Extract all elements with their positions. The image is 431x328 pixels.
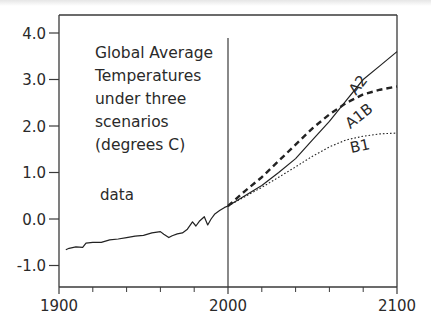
title-line: under three bbox=[95, 90, 186, 108]
y-tick-label: -1.0 bbox=[17, 257, 46, 275]
series-label-a1b: A1B bbox=[342, 100, 377, 133]
y-tick-label: 1.0 bbox=[22, 164, 46, 182]
title-line: Temperatures bbox=[94, 67, 201, 85]
x-axis: 190020002100 bbox=[40, 287, 416, 315]
x-tick-label: 2000 bbox=[209, 297, 247, 315]
title-line: scenarios bbox=[95, 113, 169, 131]
series-data-line bbox=[66, 206, 228, 250]
series-a1b-line bbox=[228, 87, 397, 207]
y-axis: 4.03.02.01.00.0-1.0 bbox=[17, 25, 59, 276]
x-tick-label: 2100 bbox=[378, 297, 416, 315]
temperature-scenario-chart: 4.03.02.01.00.0-1.0 190020002100 dataA2A… bbox=[0, 0, 431, 328]
y-tick-label: 2.0 bbox=[22, 118, 46, 136]
chart-title: Global AverageTemperaturesunder threesce… bbox=[94, 44, 213, 154]
series-label-data: data bbox=[100, 186, 134, 204]
title-line: (degrees C) bbox=[95, 136, 185, 154]
x-tick-label: 1900 bbox=[40, 297, 78, 315]
series-b1-line bbox=[228, 133, 397, 206]
title-line: Global Average bbox=[95, 44, 213, 62]
y-tick-label: 3.0 bbox=[22, 71, 46, 89]
series-label-b1: B1 bbox=[348, 135, 371, 157]
y-tick-label: 4.0 bbox=[22, 25, 46, 43]
y-tick-label: 0.0 bbox=[22, 211, 46, 229]
